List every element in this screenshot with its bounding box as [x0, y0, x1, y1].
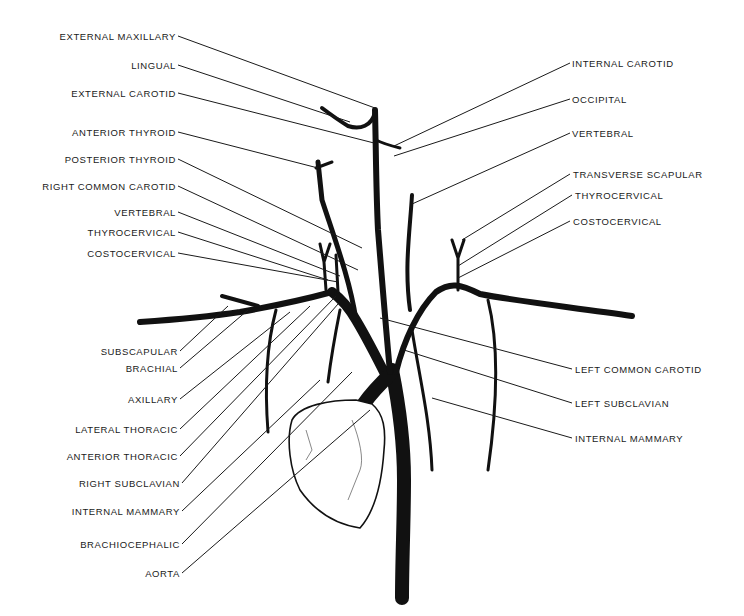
label-occipital: OCCIPITAL [572, 94, 627, 105]
aorta-vessel [392, 370, 404, 598]
label-external-carotid: EXTERNAL CAROTID [71, 88, 176, 99]
label-right-subclavian: RIGHT SUBCLAVIAN [79, 478, 180, 489]
label-transverse-scapular: TRANSVERSE SCAPULAR [573, 169, 703, 180]
left-vertebral-vessel [407, 195, 412, 310]
label-internal-carotid: INTERNAL CAROTID [572, 58, 674, 69]
label-anterior-thoracic: ANTERIOR THORACIC [67, 451, 178, 462]
right-subclavian-vessel [140, 292, 332, 322]
right-descending-branch [266, 310, 276, 432]
label-left-common-carotid: LEFT COMMON CAROTID [575, 364, 702, 375]
label-lateral-thoracic: LATERAL THORACIC [75, 424, 178, 435]
label-aorta: AORTA [145, 568, 180, 579]
label-left-subclavian: LEFT SUBCLAVIAN [575, 398, 669, 409]
label-subscapular: SUBSCAPULAR [101, 346, 178, 357]
occipital-vessel [376, 140, 400, 148]
label-internal-mammary-left: INTERNAL MAMMARY [575, 433, 683, 444]
label-axillary: AXILLARY [128, 394, 178, 405]
artery-diagram: EXTERNAL MAXILLARY LINGUAL EXTERNAL CARO… [0, 0, 744, 616]
label-right-common-carotid: RIGHT COMMON CAROTID [42, 181, 176, 192]
label-vertebral-right: VERTEBRAL [114, 207, 176, 218]
label-lingual: LINGUAL [131, 60, 176, 71]
label-external-maxillary: EXTERNAL MAXILLARY [60, 31, 176, 42]
external-carotid-vessel [322, 108, 375, 127]
label-internal-mammary-right: INTERNAL MAMMARY [72, 506, 180, 517]
heart [289, 400, 384, 528]
label-costocervical-left: COSTOCERVICAL [573, 216, 662, 227]
brachiocephalic-vessel [332, 292, 388, 380]
label-vertebral-left: VERTEBRAL [572, 128, 634, 139]
label-thyrocervical-left: THYROCERVICAL [575, 190, 663, 201]
left-descending-branch [488, 300, 496, 470]
right-thyrocervical-vessel [320, 244, 330, 290]
label-thyrocervical-right: THYROCERVICAL [88, 227, 176, 238]
subscapular-vessel [222, 296, 258, 306]
right-internal-mammary-vessel [328, 310, 340, 382]
label-brachial: BRACHIAL [126, 363, 178, 374]
label-posterior-thyroid: POSTERIOR THYROID [65, 154, 176, 165]
label-costocervical-right: COSTOCERVICAL [87, 248, 176, 259]
label-brachiocephalic: BRACHIOCEPHALIC [80, 539, 180, 550]
left-internal-mammary-vessel [412, 330, 432, 470]
left-common-carotid-vessel [375, 110, 390, 372]
label-anterior-thyroid: ANTERIOR THYROID [72, 127, 176, 138]
